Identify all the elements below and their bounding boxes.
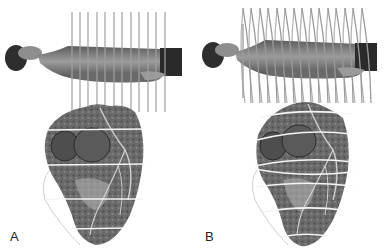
panel-a-illustration [0,0,192,251]
panel-a: A [0,0,192,251]
panel-label-a: A [10,230,19,243]
panel-label-b: B [205,230,214,243]
panel-b: B [193,0,385,251]
heart-icon [43,104,143,245]
panel-b-illustration [193,0,385,251]
